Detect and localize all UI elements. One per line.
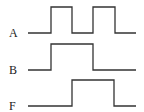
- waveform-f: [28, 80, 136, 106]
- timing-diagram: A B F: [0, 0, 144, 112]
- waveforms: [0, 0, 144, 112]
- signal-label-f: F: [9, 100, 16, 112]
- signal-label-b: B: [9, 64, 17, 76]
- signal-label-a: A: [9, 27, 18, 39]
- waveform-b: [28, 44, 136, 70]
- waveform-a: [28, 7, 136, 33]
